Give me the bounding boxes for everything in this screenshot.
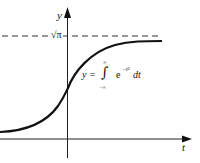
y-axis-arrow-icon bbox=[64, 7, 71, 18]
integrand-base: e bbox=[116, 70, 120, 80]
x-axis-label: t bbox=[182, 142, 185, 153]
y-axis-label: y bbox=[57, 10, 62, 21]
asymptote-label: √π bbox=[50, 30, 63, 40]
integral-sign-icon: ∫ bbox=[101, 64, 108, 80]
error-function-diagram: y √π t y = ∫ ∞ −∞ e −t² dt bbox=[0, 0, 200, 163]
integral-upper-limit: ∞ bbox=[103, 60, 107, 65]
integral-curve bbox=[0, 41, 162, 132]
integral-lower-limit: −∞ bbox=[99, 85, 106, 90]
formula-lhs: y = bbox=[82, 70, 96, 80]
plot-canvas bbox=[0, 0, 200, 163]
integral-differential: dt bbox=[133, 70, 141, 80]
integrand-exponent: −t² bbox=[122, 66, 130, 72]
